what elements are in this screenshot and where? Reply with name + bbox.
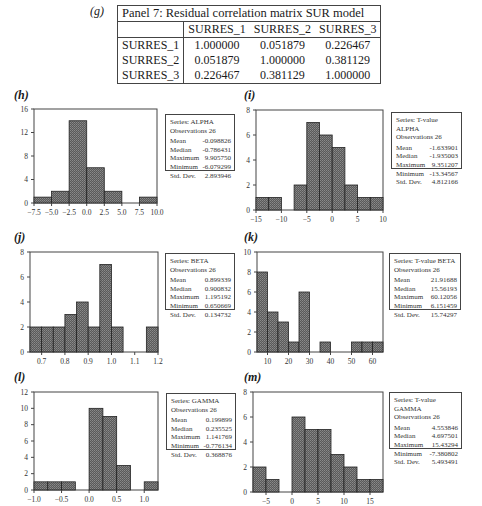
- stat-name: Maximum: [170, 154, 199, 163]
- observations-label: Observations 26: [396, 133, 458, 142]
- observations-label: Observations 26: [394, 413, 458, 422]
- stat-value: -13.34567: [429, 170, 458, 179]
- stat-name: Minimum: [170, 302, 198, 311]
- stat-name: Median: [394, 285, 415, 294]
- histogram-bar: [331, 455, 344, 493]
- histogram-bar: [344, 467, 357, 492]
- stat-value: 0.368876: [206, 451, 232, 460]
- stat-name: Minimum: [171, 442, 199, 451]
- stat-name: Median: [170, 285, 191, 294]
- stat-name: Mean: [170, 137, 186, 146]
- stat-value: -7.380802: [429, 450, 458, 459]
- x-tick-label: 15: [366, 497, 374, 506]
- observations-label: Observations 26: [170, 266, 231, 275]
- stat-value: 4.553846: [432, 424, 458, 433]
- stats-box-tvalue-beta: Series: T-value BETA Observations 26 Mea…: [389, 253, 461, 310]
- stat-name: Std. Dev.: [170, 172, 196, 181]
- x-tick-label: 0: [290, 497, 294, 506]
- stat-name: Maximum: [394, 293, 423, 302]
- stat-name: Median: [170, 146, 191, 155]
- stat-value: 1.195192: [205, 293, 231, 302]
- stat-value: 15.56193: [431, 285, 457, 294]
- stat-value: 4.697501: [432, 432, 458, 441]
- stat-value: -1.935003: [429, 152, 458, 161]
- stat-value: 0.199899: [206, 416, 232, 425]
- stat-name: Std. Dev.: [394, 311, 420, 320]
- stat-value: 1.141769: [206, 433, 232, 442]
- stat-value: -1.633901: [429, 144, 458, 153]
- observations-label: Observations 26: [394, 266, 457, 275]
- stat-name: Mean: [396, 144, 412, 153]
- stat-name: Std. Dev.: [394, 458, 420, 467]
- histogram-bar: [253, 467, 266, 492]
- stats-box-alpha: Series: ALPHA Observations 26 Mean-0.098…: [165, 114, 235, 171]
- histogram-bar: [266, 480, 279, 493]
- y-tick-label: 8: [243, 388, 247, 397]
- stat-value: -0.098826: [202, 137, 231, 146]
- stat-value: 0.235525: [206, 425, 232, 434]
- stats-box-gamma: Series: GAMMA Observations 26 Mean0.1998…: [166, 393, 236, 450]
- histogram-bar: [305, 430, 318, 493]
- y-tick-label: 6: [243, 413, 247, 422]
- series-label: Series: T-value BETA: [394, 257, 457, 266]
- stat-value: -0.776134: [203, 442, 232, 451]
- stat-value: 5.493491: [432, 458, 458, 467]
- histogram-bar: [357, 480, 370, 493]
- stat-value: 15.43294: [432, 441, 458, 450]
- stat-value: 6.151459: [431, 302, 457, 311]
- stat-value: 0.899339: [205, 276, 231, 285]
- series-label: Series: GAMMA: [171, 397, 232, 406]
- stat-name: Std. Dev.: [171, 451, 197, 460]
- stat-value: -0.786431: [202, 146, 231, 155]
- stat-value: 9.351207: [432, 161, 458, 170]
- y-tick-label: 0: [243, 488, 247, 497]
- stat-value: -6.079299: [202, 163, 231, 172]
- stat-value: 4.812166: [432, 178, 458, 187]
- x-tick-label: −5: [262, 497, 270, 506]
- y-tick-label: 4: [243, 438, 247, 447]
- histogram-bar: [318, 430, 331, 493]
- stat-name: Maximum: [396, 161, 425, 170]
- stat-name: Mean: [170, 276, 186, 285]
- stat-value: 2.893946: [205, 172, 231, 181]
- stat-value: 0.900832: [205, 285, 231, 294]
- stat-name: Mean: [394, 276, 410, 285]
- observations-label: Observations 26: [170, 127, 231, 136]
- stat-name: Mean: [394, 424, 410, 433]
- stat-value: 9.905750: [205, 154, 231, 163]
- stat-name: Mean: [171, 416, 187, 425]
- y-tick-label: 2: [243, 463, 247, 472]
- observations-label: Observations 26: [171, 406, 232, 415]
- stat-name: Std. Dev.: [170, 311, 196, 320]
- stats-box-tvalue-alpha: Series: T-value ALPHA Observations 26 Me…: [391, 112, 462, 169]
- stat-name: Median: [394, 432, 415, 441]
- stat-value: 21.91688: [431, 276, 457, 285]
- series-label: Series: T-value GAMMA: [394, 396, 458, 413]
- stats-box-beta: Series: BETA Observations 26 Mean0.89933…: [165, 253, 235, 310]
- histogram-bar: [370, 480, 383, 493]
- stat-value: 15.74297: [431, 311, 457, 320]
- stat-name: Minimum: [394, 302, 422, 311]
- histogram-bar: [292, 417, 305, 492]
- stat-name: Minimum: [170, 163, 198, 172]
- stat-value: 0.650669: [205, 302, 231, 311]
- stat-name: Median: [396, 152, 417, 161]
- x-tick-label: 5: [316, 497, 320, 506]
- stat-name: Std. Dev.: [396, 178, 422, 187]
- stats-box-tvalue-gamma: Series: T-value GAMMA Observations 26 Me…: [389, 392, 462, 449]
- stat-name: Maximum: [394, 441, 423, 450]
- series-label: Series: T-value ALPHA: [396, 116, 458, 133]
- series-label: Series: BETA: [170, 257, 231, 266]
- stat-name: Maximum: [170, 293, 199, 302]
- stat-value: 0.134732: [205, 311, 231, 320]
- stat-name: Minimum: [396, 170, 424, 179]
- stat-name: Minimum: [394, 450, 422, 459]
- x-tick-label: 10: [340, 497, 348, 506]
- stat-name: Median: [171, 425, 192, 434]
- series-label: Series: ALPHA: [170, 118, 231, 127]
- stat-value: 60.12056: [431, 293, 457, 302]
- stat-name: Maximum: [171, 433, 200, 442]
